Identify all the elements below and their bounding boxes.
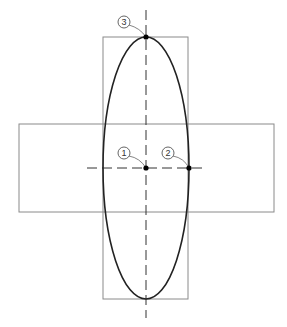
ellipse-diagram: 1 2 3 bbox=[0, 0, 287, 327]
point-1-label: 1 bbox=[121, 148, 126, 158]
point-3: 3 bbox=[118, 16, 149, 40]
point-2-label: 2 bbox=[165, 148, 170, 158]
point-2: 2 bbox=[162, 147, 192, 171]
point-1: 1 bbox=[118, 147, 149, 171]
point-3-label: 3 bbox=[121, 17, 126, 27]
